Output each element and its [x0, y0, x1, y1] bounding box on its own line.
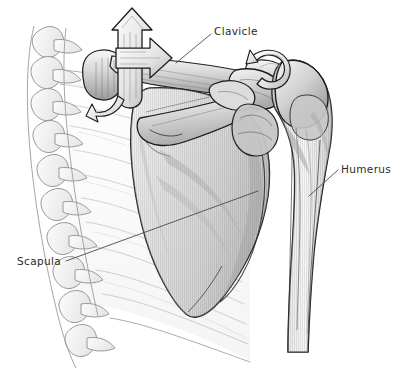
shoulder-anatomy-illustration [0, 0, 400, 372]
label-scapula: Scapula [17, 255, 61, 267]
leader-line-clavicle [176, 34, 211, 63]
anatomy-figure: Clavicle Humerus Scapula [0, 0, 400, 372]
humerus-group [272, 58, 336, 358]
label-clavicle: Clavicle [214, 25, 258, 37]
label-humerus: Humerus [341, 163, 391, 175]
